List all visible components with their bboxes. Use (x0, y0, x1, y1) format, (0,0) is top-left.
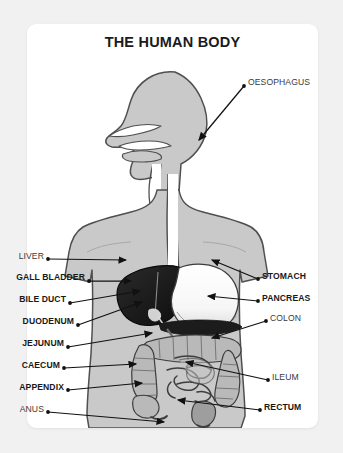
leader-dot-liver (46, 257, 50, 261)
leader-dot-duodenum (76, 323, 80, 327)
label-bile-duct: BILE DUCT (19, 295, 66, 304)
gall-bladder-organ (148, 309, 160, 321)
label-liver: LIVER (19, 252, 44, 261)
label-pancreas: PANCREAS (262, 294, 310, 303)
label-rectum: RECTUM (264, 403, 301, 412)
diagram-card: THE HUMAN BODY (27, 24, 318, 428)
label-jejunum: JEJUNUM (22, 339, 64, 348)
label-anus: ANUS (20, 405, 44, 414)
leader-dot-caecum (62, 366, 66, 370)
leader-dot-gall-bladder (87, 279, 91, 283)
caecum-organ (133, 395, 159, 418)
leader-dot-pancreas (256, 299, 260, 303)
rectum-organ (192, 401, 216, 426)
label-caecum: CAECUM (22, 361, 60, 370)
leader-dot-jejunum (66, 345, 70, 349)
leader-dot-ileum (266, 378, 270, 382)
leader-dot-rectum (258, 408, 262, 412)
screenshot-root: THE HUMAN BODY (0, 0, 343, 453)
leader-dot-appendix (66, 388, 70, 392)
label-stomach: STOMACH (262, 272, 306, 281)
label-duodenum: DUODENUM (23, 317, 74, 326)
leader-dot-colon (264, 319, 268, 323)
oesophagus-organ (167, 174, 179, 273)
leader-dot-anus (46, 410, 50, 414)
label-colon: COLON (270, 314, 301, 323)
label-appendix: APPENDIX (19, 383, 64, 392)
label-oesophagus: OESOPHAGUS (248, 78, 310, 87)
label-ileum: ILEUM (272, 373, 299, 382)
leader-dot-oesophagus (242, 84, 246, 88)
label-gall-bladder: GALL BLADDER (16, 273, 85, 282)
leader-dot-stomach (256, 277, 260, 281)
leader-dot-bile-duct (68, 301, 72, 305)
